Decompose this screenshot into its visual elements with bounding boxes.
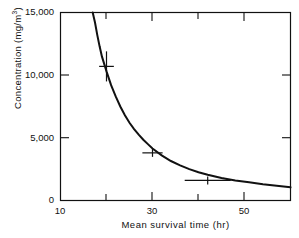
axis-ticks <box>61 13 291 201</box>
data-point-2 <box>142 149 162 157</box>
figure-container: Concentration (mg/m3) Mean survival time… <box>0 0 299 238</box>
axes-frame <box>61 13 291 201</box>
fitted-curve <box>93 13 291 188</box>
plot-svg <box>0 0 299 238</box>
